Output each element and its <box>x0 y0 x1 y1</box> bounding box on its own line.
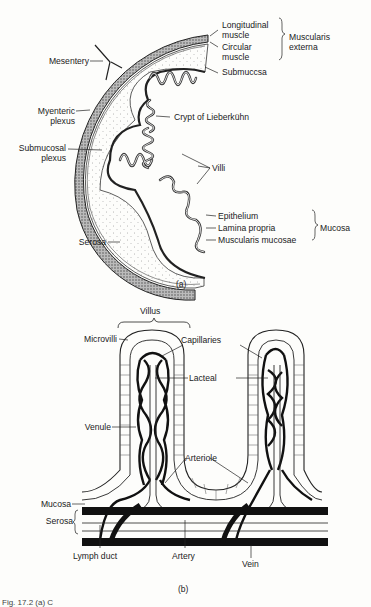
caption-panel-a: (a) <box>176 279 186 289</box>
label-venule: Venule <box>70 422 111 432</box>
label-lymph-duct: Lymph duct <box>73 551 117 561</box>
label-submucosa: Submuccsa <box>222 67 267 77</box>
caption-panel-b: (b) <box>178 584 188 594</box>
label-villus: Villus <box>140 306 160 316</box>
label-vein: Vein <box>242 559 259 569</box>
label-villi: Villi <box>212 163 225 173</box>
label-submucosal-plexus: Submucosalplexus <box>4 143 66 163</box>
label-myenteric-plexus: Myentericplexus <box>20 106 75 126</box>
label-epithelium: Epithelium <box>218 211 258 221</box>
cross-section-panel-a <box>68 18 318 300</box>
label-lamina-propria: Lamina propria <box>218 223 275 233</box>
label-capillaries: Capillaries <box>181 335 221 345</box>
label-serosa-b: Serosa <box>30 516 73 526</box>
label-muscularis-externa: Muscularisexterna <box>289 32 330 52</box>
label-muscularis-mucosae: Muscularis mucosae <box>218 235 296 245</box>
label-mesentery: Mesentery <box>42 56 89 66</box>
villus-panel-b <box>72 318 328 558</box>
label-crypt-of-lieberkuhn: Crypt of Lieberkühn <box>174 112 249 122</box>
label-mucosa-b: Mucosa <box>30 499 71 509</box>
label-serosa-a: Serosa <box>60 237 106 247</box>
label-mucosa-a: Mucosa <box>320 223 350 233</box>
label-microvilli: Microvilli <box>60 334 117 344</box>
label-circular-muscle: Circularmuscle <box>222 42 252 62</box>
label-artery: Artery <box>172 551 195 561</box>
label-arteriole: Arteriole <box>185 453 217 463</box>
label-lacteal: Lacteal <box>189 373 217 383</box>
label-longitudinal-muscle: Longitudinalmuscle <box>222 20 268 40</box>
figure-caption-truncated: Fig. 17.2 (a) C <box>2 598 53 607</box>
